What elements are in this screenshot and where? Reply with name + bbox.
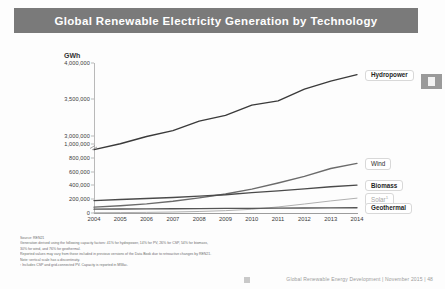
y-axis-tick-mark xyxy=(91,157,94,158)
x-axis-tick-label: 2010 xyxy=(245,216,258,222)
sidebar-page-badge[interactable] xyxy=(421,74,442,89)
x-axis-tick-label: 2007 xyxy=(166,216,179,222)
page-title: Global Renewable Electricity Generation … xyxy=(54,15,377,27)
y-axis-tick-mark xyxy=(91,171,94,172)
x-axis-line xyxy=(94,213,358,214)
footnotes: Source: REN21Generation derived using th… xyxy=(20,236,280,269)
y-axis-tick-mark xyxy=(91,185,94,186)
series-line-wind xyxy=(94,163,357,207)
y-axis-tick-label: 400,000 xyxy=(69,182,90,188)
x-axis-tick-label: 2012 xyxy=(298,216,311,222)
y-axis-tick-mark xyxy=(91,63,94,64)
y-axis-tick-mark xyxy=(91,213,94,214)
series-line-geothermal xyxy=(94,208,357,209)
x-axis-tick-label: 2008 xyxy=(193,216,206,222)
slide-title-banner: Global Renewable Electricity Generation … xyxy=(14,8,418,33)
footer-square-icon xyxy=(244,277,250,283)
y-axis-tick-label: 3,500,000 xyxy=(64,96,90,102)
x-axis-tick-label: 2013 xyxy=(324,216,337,222)
plot-area xyxy=(94,63,357,213)
x-axis-tick-label: 2014 xyxy=(351,216,364,222)
series-label-hydropower[interactable]: Hydropower xyxy=(365,70,414,81)
series-line-biomass xyxy=(94,185,357,201)
y-axis-tick-label: 200,000 xyxy=(69,196,90,202)
series-lines xyxy=(94,63,357,213)
x-axis-tick-label: 2011 xyxy=(272,216,284,222)
series-line-hydropower xyxy=(94,75,357,150)
y-axis-tick-label: 1,000,000 xyxy=(64,141,90,147)
series-label-geothermal[interactable]: Geothermal xyxy=(365,203,412,214)
chart-container: GWh 0200,000400,000600,000800,0001,000,0… xyxy=(20,52,415,230)
x-axis-tick-label: 2004 xyxy=(88,216,101,222)
series-label-biomass[interactable]: Biomass xyxy=(365,180,403,191)
footnote-line: ¹ Includes CSP and grid-connected PV. Ca… xyxy=(20,263,280,268)
slide-footer: Global Renewable Energy Development | No… xyxy=(286,276,433,282)
y-axis-tick-label: 800,000 xyxy=(69,155,90,161)
axis-break-icon xyxy=(90,136,99,143)
x-axis-tick-label: 2005 xyxy=(114,216,127,222)
y-axis-tick-label: 4,000,000 xyxy=(64,60,90,66)
y-axis-tick-mark xyxy=(91,99,94,100)
badge-mark-icon xyxy=(428,77,435,86)
y-axis-tick-label: 600,000 xyxy=(69,169,90,175)
y-axis-tick-group: 0200,000400,000600,000800,0001,000,0003,… xyxy=(20,52,90,213)
y-axis-tick-mark xyxy=(91,199,94,200)
x-axis-tick-label: 2006 xyxy=(140,216,153,222)
series-label-wind[interactable]: Wind xyxy=(365,158,391,169)
slide-canvas: Global Renewable Electricity Generation … xyxy=(0,0,445,289)
y-axis-tick-label: 3,000,000 xyxy=(64,133,90,139)
x-axis-tick-label: 2009 xyxy=(219,216,232,222)
